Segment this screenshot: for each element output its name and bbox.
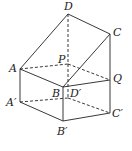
label-Q: Q xyxy=(113,73,122,84)
edge-CB xyxy=(63,34,110,87)
edge-DC xyxy=(68,14,110,34)
edge-BpCp xyxy=(63,113,110,121)
label-D: D xyxy=(64,1,73,12)
edge-DpCp xyxy=(68,98,110,113)
label-Dp: D′ xyxy=(70,88,81,99)
label-P: P xyxy=(58,54,65,65)
label-Bp: B′ xyxy=(57,126,68,137)
label-B: B xyxy=(52,88,60,99)
label-A: A xyxy=(9,63,17,74)
edge-ApDp xyxy=(20,98,68,102)
edge-ApBp xyxy=(20,102,63,121)
edge-AB xyxy=(20,69,63,87)
edge-BQ xyxy=(63,80,110,87)
edge-PQ xyxy=(68,64,110,80)
label-Ap: A′ xyxy=(6,97,16,108)
label-C: C xyxy=(113,27,121,38)
label-Cp: C′ xyxy=(112,108,123,119)
